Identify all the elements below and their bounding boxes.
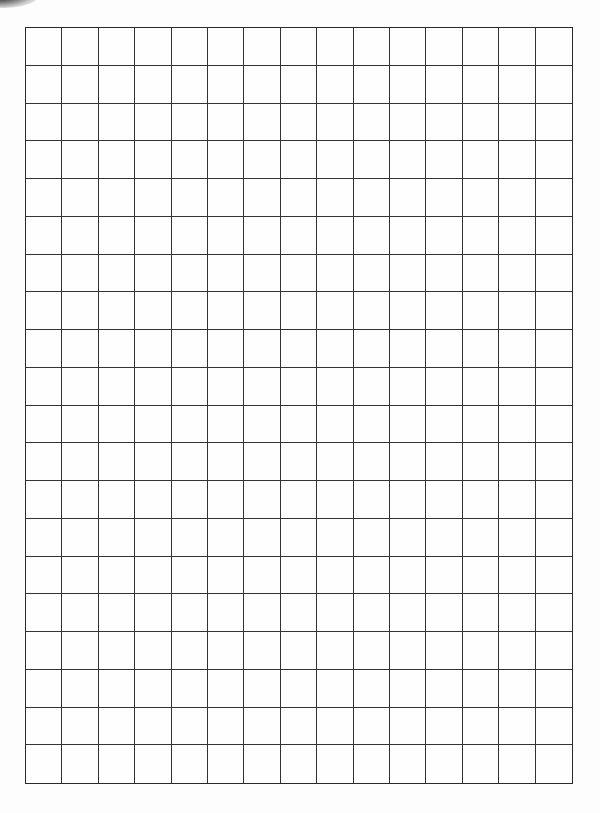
grid-cell	[317, 632, 353, 670]
grid-cell	[390, 104, 426, 142]
grid-cell	[317, 368, 353, 406]
grid-cell	[99, 28, 135, 66]
grid-cell	[244, 594, 280, 632]
grid-cell	[62, 368, 98, 406]
grid-cell	[317, 292, 353, 330]
grid-cell	[281, 708, 317, 746]
grid-cell	[281, 406, 317, 444]
grid-cell	[390, 632, 426, 670]
grid-cell	[354, 66, 390, 104]
grid-cell	[26, 481, 62, 519]
grid-cell	[390, 292, 426, 330]
grid-cell	[499, 179, 535, 217]
grid-cell	[62, 255, 98, 293]
grid-cell	[426, 66, 462, 104]
grid-cell	[390, 519, 426, 557]
grid-cell	[99, 632, 135, 670]
grid-cell	[172, 330, 208, 368]
grid-cell	[536, 406, 572, 444]
grid-cell	[99, 557, 135, 595]
grid-cell	[244, 292, 280, 330]
grid-cell	[536, 217, 572, 255]
grid-cell	[463, 292, 499, 330]
grid-cell	[354, 443, 390, 481]
grid-cell	[62, 66, 98, 104]
grid-cell	[499, 557, 535, 595]
grid-cell	[26, 66, 62, 104]
grid-cell	[62, 292, 98, 330]
grid-cell	[26, 406, 62, 444]
grid-cell	[281, 104, 317, 142]
grid-cell	[390, 670, 426, 708]
grid-cell	[172, 104, 208, 142]
grid-cell	[244, 66, 280, 104]
grid-cell	[208, 330, 244, 368]
grid-cell	[62, 330, 98, 368]
grid-cell	[426, 141, 462, 179]
grid-cell	[426, 28, 462, 66]
grid-cell	[536, 179, 572, 217]
grid-cell	[426, 255, 462, 293]
grid-cell	[426, 217, 462, 255]
grid-cell	[244, 519, 280, 557]
grid-cell	[536, 66, 572, 104]
grid-cell	[499, 632, 535, 670]
grid-cell	[499, 292, 535, 330]
grid-cell	[135, 670, 171, 708]
grid-cell	[499, 745, 535, 783]
grid-cell	[354, 292, 390, 330]
grid-cell	[26, 104, 62, 142]
grid-cell	[62, 28, 98, 66]
grid-cell	[463, 179, 499, 217]
grid-cell	[208, 632, 244, 670]
grid-cell	[463, 217, 499, 255]
grid-cell	[499, 104, 535, 142]
grid-cell	[426, 406, 462, 444]
grid-cell	[99, 481, 135, 519]
grid-cell	[244, 330, 280, 368]
grid-cell	[99, 406, 135, 444]
grid-cell	[99, 519, 135, 557]
grid-cell	[208, 217, 244, 255]
grid-cell	[463, 670, 499, 708]
grid-cell	[390, 594, 426, 632]
grid-cell	[62, 670, 98, 708]
grid-cell	[172, 179, 208, 217]
grid-cell	[317, 594, 353, 632]
grid-cell	[26, 594, 62, 632]
grid-cell	[208, 443, 244, 481]
grid-cell	[317, 481, 353, 519]
grid-cell	[426, 179, 462, 217]
grid-cell	[317, 519, 353, 557]
grid-cell	[536, 670, 572, 708]
grid-cell	[426, 670, 462, 708]
grid-cell	[354, 557, 390, 595]
grid-cell	[26, 670, 62, 708]
grid-cell	[135, 594, 171, 632]
grid-cell	[135, 557, 171, 595]
grid-cell	[208, 708, 244, 746]
grid-cell	[354, 368, 390, 406]
grid-cell	[317, 28, 353, 66]
grid-cell	[62, 179, 98, 217]
grid-cell	[208, 179, 244, 217]
grid-cell	[536, 28, 572, 66]
grid-cell	[244, 104, 280, 142]
grid-cell	[354, 104, 390, 142]
grid-cell	[26, 255, 62, 293]
grid-cell	[463, 443, 499, 481]
grid-cell	[390, 745, 426, 783]
grid-cell	[26, 330, 62, 368]
grid-cell	[536, 255, 572, 293]
grid-cell	[463, 141, 499, 179]
grid-cell	[499, 368, 535, 406]
grid-cell	[390, 179, 426, 217]
grid-cell	[499, 330, 535, 368]
grid-cell	[536, 519, 572, 557]
grid-cell	[426, 104, 462, 142]
grid-cell	[390, 330, 426, 368]
grid-cell	[99, 104, 135, 142]
grid-cell	[99, 292, 135, 330]
grid-cell	[390, 217, 426, 255]
grid-cell	[172, 557, 208, 595]
